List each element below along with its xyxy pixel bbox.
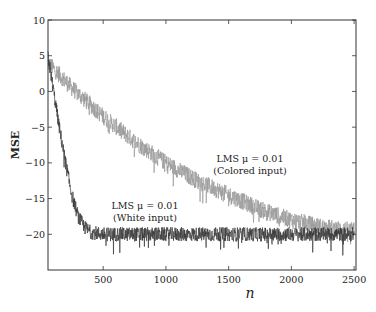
y-tick-label: −10 xyxy=(25,157,45,168)
annotation-white-line2: (White input) xyxy=(113,212,177,223)
y-tick-label: −5 xyxy=(31,122,45,133)
series-colored-input xyxy=(48,59,354,244)
y-tick-label: 0 xyxy=(39,86,45,97)
x-axis-label: n xyxy=(245,285,254,301)
axis-ticks: 50010001500200025001050−5−10−15−20 xyxy=(25,15,366,286)
x-tick-label: 1000 xyxy=(154,274,178,285)
annotation-white: LMS μ = 0.01 (White input) xyxy=(112,200,179,223)
annotation-colored: LMS μ = 0.01 (Colored input) xyxy=(213,153,287,176)
y-tick-label: 5 xyxy=(39,50,45,61)
mse-chart: 50010001500200025001050−5−10−15−20 MSE n… xyxy=(0,0,376,312)
annotation-colored-line1: LMS μ = 0.01 xyxy=(217,153,284,164)
y-tick-label: −15 xyxy=(25,193,45,204)
x-tick-label: 1500 xyxy=(217,274,241,285)
x-tick-label: 2500 xyxy=(342,274,366,285)
annotation-white-line1: LMS μ = 0.01 xyxy=(112,200,179,211)
annotation-colored-line2: (Colored input) xyxy=(213,165,287,176)
y-tick-label: −20 xyxy=(25,229,45,240)
y-tick-label: 10 xyxy=(33,15,45,26)
series-layer xyxy=(48,52,354,256)
x-tick-label: 500 xyxy=(94,274,112,285)
y-axis-label: MSE xyxy=(9,131,22,160)
x-tick-label: 2000 xyxy=(279,274,303,285)
